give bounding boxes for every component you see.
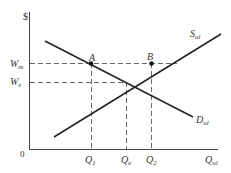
origin-label: 0 — [20, 149, 25, 159]
y-axis-label: $ — [23, 11, 28, 22]
point-a-label: A — [88, 52, 96, 63]
wm-label: Wm — [10, 58, 23, 71]
supply-label: Sul — [190, 28, 201, 41]
x-axis-label: Qul — [205, 154, 218, 167]
qe-label: Qe — [121, 154, 131, 167]
q2-label: Q2 — [146, 154, 157, 167]
labor-market-diagram: $ 0 A B Wm We Q1 Qe Q2 Qul Sul Dul — [0, 0, 231, 173]
q1-label: Q1 — [85, 154, 96, 167]
we-label: We — [10, 76, 21, 89]
demand-curve — [45, 41, 193, 117]
demand-label: Dul — [195, 114, 209, 127]
point-b-label: B — [147, 51, 153, 62]
